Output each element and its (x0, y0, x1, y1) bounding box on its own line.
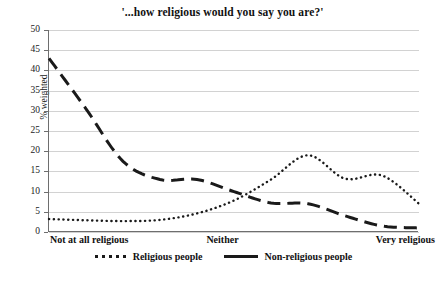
y-axis-tick-label: 15 (0, 166, 40, 176)
y-axis-tick-mark (44, 232, 48, 233)
chart-legend: Religious people Non-religious people (0, 251, 445, 262)
dotted-line-swatch-icon (93, 255, 127, 258)
legend-item-religious-people: Religious people (93, 251, 203, 262)
y-axis-tick-label: 35 (0, 86, 40, 96)
gridline (49, 232, 419, 233)
y-axis-tick-label: 20 (0, 146, 40, 156)
y-axis-tick-label: 30 (0, 106, 40, 116)
chart-figure: '...how religious would you say you are?… (0, 0, 445, 282)
y-axis-tick-label: 10 (0, 187, 40, 197)
y-axis-tick-label: 50 (0, 25, 40, 35)
chart-title: '...how religious would you say you are?… (0, 6, 445, 18)
plot-area (48, 30, 418, 232)
series-lines (49, 30, 419, 232)
series-line-religious-people (49, 155, 419, 221)
y-axis-tick-label: 40 (0, 65, 40, 75)
legend-label-religious-people: Religious people (133, 251, 203, 262)
legend-item-non-religious-people: Non-religious people (224, 251, 352, 262)
legend-label-non-religious-people: Non-religious people (264, 251, 352, 262)
y-axis-tick-label: 45 (0, 45, 40, 55)
y-axis-tick-label: 25 (0, 126, 40, 136)
series-line-non-religious-people (49, 58, 419, 228)
x-axis-label-right: Very religious (376, 234, 435, 245)
solid-line-swatch-icon (224, 255, 258, 258)
y-axis-tick-label: 5 (0, 207, 40, 217)
